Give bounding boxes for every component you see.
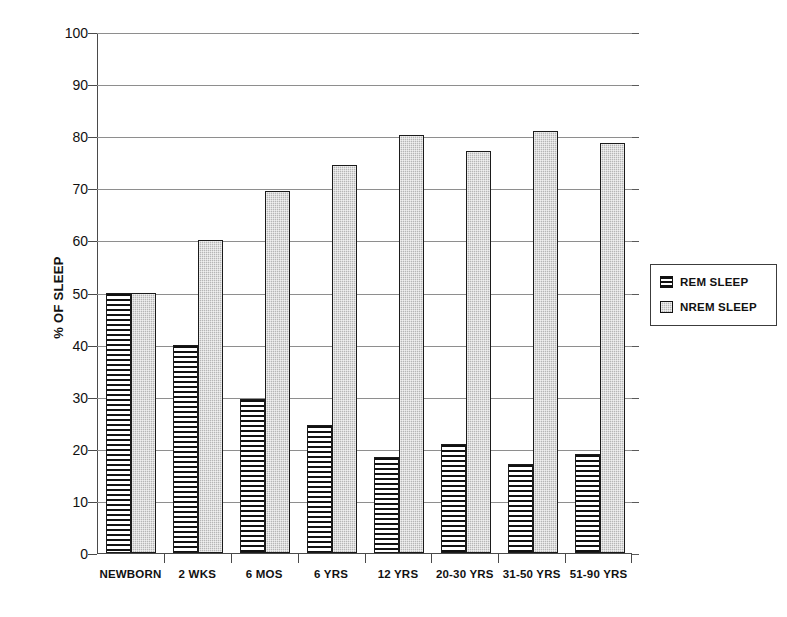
y-axis-tick: [88, 294, 97, 295]
y-axis-tick: [88, 85, 97, 86]
bar-nrem: [600, 143, 625, 553]
x-axis-tick-label: NEWBORN: [97, 568, 164, 580]
x-axis-tick-label: 31-50 YRS: [498, 568, 565, 580]
y-axis-tick-right: [632, 294, 639, 295]
x-axis-tick: [231, 553, 232, 563]
bar-nrem: [466, 151, 491, 553]
bar-nrem: [198, 240, 223, 553]
y-axis-tick: [88, 450, 97, 451]
y-axis-tick-labels: 0102030405060708090100: [50, 33, 88, 554]
legend-item-nrem-sleep[interactable]: NREM SLEEP: [660, 300, 757, 314]
y-axis-tick-label: 30: [48, 391, 88, 405]
x-axis-tick: [365, 553, 366, 563]
x-axis-tick: [498, 553, 499, 563]
y-axis-tick-label: 0: [48, 547, 88, 561]
bar-chart-figure: % OF SLEEP 0102030405060708090100 NEWBOR…: [0, 0, 787, 617]
y-axis-tick-right: [632, 241, 639, 242]
y-axis-tick-right: [632, 137, 639, 138]
bar-nrem: [533, 131, 558, 553]
x-axis-tick-labels: NEWBORN2 WKS6 MOS6 YRS12 YRS20-30 YRS31-…: [97, 568, 632, 588]
y-axis-tick-right: [632, 189, 639, 190]
x-axis-tick-label: 51-90 YRS: [565, 568, 632, 580]
chart-legend: REM SLEEP NREM SLEEP: [650, 264, 777, 326]
x-axis-tick: [631, 553, 632, 563]
y-axis-tick-right: [632, 554, 639, 555]
y-axis-tick-label: 100: [48, 26, 88, 40]
bar-nrem: [399, 135, 424, 553]
bar-rem: [575, 454, 600, 553]
gridline: [97, 85, 632, 86]
y-axis-tick: [88, 398, 97, 399]
y-axis-tick-right: [632, 450, 639, 451]
bar-rem: [508, 464, 533, 553]
y-axis-tick-label: 40: [48, 339, 88, 353]
y-axis-tick-label: 60: [48, 234, 88, 248]
y-axis-tick: [88, 33, 97, 34]
x-axis-tick: [298, 553, 299, 563]
legend-label-rem: REM SLEEP: [680, 276, 748, 288]
x-axis-tick-label: 6 YRS: [298, 568, 365, 580]
bar-rem: [374, 457, 399, 553]
y-axis-tick-label: 70: [48, 182, 88, 196]
y-axis-tick: [88, 137, 97, 138]
plot-area: [97, 33, 632, 554]
legend-item-rem-sleep[interactable]: REM SLEEP: [660, 275, 748, 289]
y-axis-tick: [88, 554, 97, 555]
x-axis-tick-label: 20-30 YRS: [431, 568, 498, 580]
bar-rem: [106, 293, 131, 554]
nrem-pattern-swatch-icon: [660, 301, 673, 313]
gridline: [97, 33, 632, 34]
x-axis-tick-label: 2 WKS: [164, 568, 231, 580]
x-axis-tick: [164, 553, 165, 563]
y-axis-tick: [88, 241, 97, 242]
bar-nrem: [332, 165, 357, 553]
bar-nrem: [131, 293, 156, 554]
x-axis-tick: [565, 553, 566, 563]
y-axis-tick-right: [632, 346, 639, 347]
y-axis-tick-right: [632, 33, 639, 34]
bar-rem: [307, 425, 332, 553]
y-axis-tick: [88, 346, 97, 347]
rem-pattern-swatch-icon: [660, 276, 673, 288]
legend-label-nrem: NREM SLEEP: [680, 301, 757, 313]
x-axis-tick-label: 12 YRS: [365, 568, 432, 580]
y-axis-tick-label: 80: [48, 130, 88, 144]
bar-rem: [173, 345, 198, 553]
y-axis-tick-label: 50: [48, 287, 88, 301]
y-axis-tick-right: [632, 85, 639, 86]
y-axis-tick: [88, 502, 97, 503]
y-axis-tick-right: [632, 398, 639, 399]
bar-rem: [240, 399, 265, 553]
x-axis-tick-label: 6 MOS: [231, 568, 298, 580]
bar-rem: [441, 444, 466, 553]
y-axis-tick: [88, 189, 97, 190]
y-axis-tick-label: 10: [48, 495, 88, 509]
y-axis-tick-label: 20: [48, 443, 88, 457]
y-axis-tick-right: [632, 502, 639, 503]
y-axis-tick-label: 90: [48, 78, 88, 92]
x-axis-tick: [431, 553, 432, 563]
bar-nrem: [265, 191, 290, 553]
